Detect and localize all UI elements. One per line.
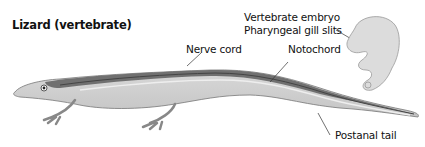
label-nerve-cord: Nerve cord xyxy=(186,43,242,55)
lizard-illustration xyxy=(0,0,425,147)
embryo-icon xyxy=(347,17,399,91)
label-notochord: Notochord xyxy=(288,43,341,55)
label-gill-slits: Pharyngeal gill slits xyxy=(244,24,342,36)
label-postanal-tail: Postanal tail xyxy=(335,129,397,141)
label-embryo: Vertebrate embryo xyxy=(244,11,340,23)
